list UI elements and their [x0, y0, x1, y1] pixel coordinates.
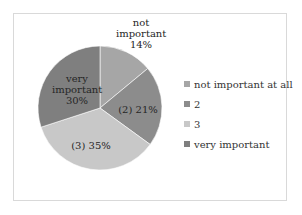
legend-item-not-important-at-all: not important at all: [184, 74, 293, 94]
legend-swatch-icon: [184, 121, 190, 127]
label-line: 14%: [116, 39, 166, 50]
label-line: not: [116, 17, 166, 28]
legend-swatch-icon: [184, 101, 190, 107]
label-line: 30%: [52, 95, 102, 106]
legend-item-2: 2: [184, 94, 293, 114]
data-label-not-important: not important 14%: [116, 17, 166, 50]
legend-item-very-important: very important: [184, 134, 293, 154]
label-line: very: [52, 73, 102, 84]
label-line: important: [52, 84, 102, 95]
legend-item-3: 3: [184, 114, 293, 134]
legend-label: 3: [194, 119, 200, 130]
legend-label: 2: [194, 99, 200, 110]
label-line: important: [116, 28, 166, 39]
data-label-3: (3) 35%: [66, 140, 116, 151]
legend-label: not important at all: [194, 79, 293, 90]
legend-swatch-icon: [184, 141, 190, 147]
legend-swatch-icon: [184, 81, 190, 87]
legend-label: very important: [194, 139, 270, 150]
data-label-very-important: very important 30%: [52, 73, 102, 106]
data-label-2: (2) 21%: [116, 104, 160, 115]
legend: not important at all 2 3 very important: [184, 74, 293, 154]
